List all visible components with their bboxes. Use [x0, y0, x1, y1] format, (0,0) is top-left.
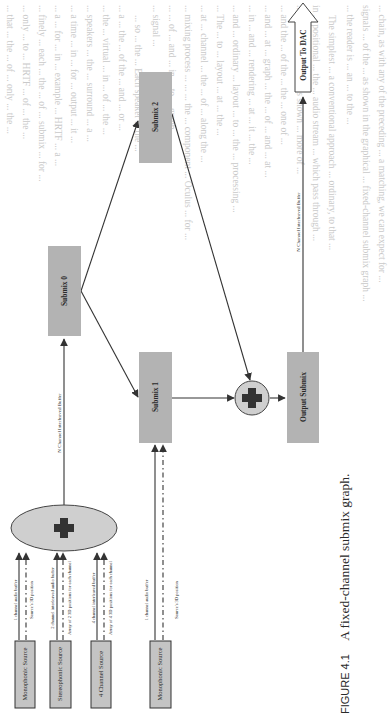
bleed-line: signals ... of the ... as shown in the g… — [361, 5, 371, 302]
submix-2-node: Submix 2 — [139, 72, 172, 163]
submix-2-label: Submix 2 — [151, 102, 160, 132]
bleed-line: ... mixing process ... ... ... the ... c… — [183, 5, 193, 240]
edge-label-submix0-buffer: N Channel Interleaved Buffer — [57, 393, 62, 453]
bleed-line: ... the reader is ... an ... to the ... — [345, 5, 355, 125]
audio-buffer-label: 1 channel audio buffer — [13, 579, 18, 620]
edge-submix0-to-submix2 — [81, 121, 138, 291]
bleed-line: ... and ... ordinary ... layout ... to .… — [231, 5, 241, 213]
output-submix-node: Output Submix — [287, 352, 319, 443]
submix-0-node: Submix 0 — [48, 246, 81, 336]
output-to-dac-label: Output To DAC — [299, 29, 308, 80]
edge-submix0-to-submix1 — [81, 291, 138, 397]
bleed-line: ... speakers ... the ... surround ... a … — [85, 5, 95, 142]
audio-buffer-label: 4 channel interleaved buffer — [91, 572, 96, 623]
source-label: Monophonic Source — [21, 647, 28, 700]
output-submix-label: Output Submix — [299, 372, 308, 422]
submix-1-label: Submix 1 — [151, 382, 160, 412]
bleed-line: ... signal ... — [151, 5, 161, 47]
figure-caption-text: A fixed-channel submix graph. — [337, 474, 352, 641]
bleed-line: ... the ... virtual ... in ... of ... th… — [101, 5, 111, 135]
bleed-line: ... finely ... each ... the ... of ... s… — [37, 5, 47, 182]
source-4-channel: 4 channel interleaved buffer Array of 4 … — [91, 553, 113, 708]
bleed-line: in ... positional ... the ... audio stre… — [311, 5, 321, 241]
bleed-line: ... at ... channel ... the ... of ... al… — [199, 5, 209, 163]
bleed-line: ... a ... for ... in ... example ... HRT… — [53, 5, 63, 166]
bleed-line: ... that ... the ... of ... only ... the… — [5, 5, 15, 134]
audio-buffer-label: 1 channel audio buffer — [144, 579, 149, 620]
position-label: Array of 4 3D positions for each channel — [108, 560, 113, 634]
source-label: Stereophonic Source — [56, 647, 63, 701]
bleed-line: ... a ... the ... of the ... and ... or … — [117, 5, 127, 131]
bleed-line: ... only ... to ... HRTF ... of ... the … — [21, 5, 31, 139]
submix-1-node: Submix 1 — [139, 352, 172, 443]
source-monophonic-1: 1 channel audio buffer Source's 3D posit… — [13, 553, 35, 708]
bleed-line: ... chain, as with any of the preceding … — [377, 5, 387, 283]
position-label: Array of 2 3D positions for each channel — [67, 560, 72, 634]
position-label: Source's 3D position — [174, 581, 179, 619]
edge-label-output-buffer: N Channel Interleaved Buffer — [296, 192, 301, 252]
svg-text:FIGURE 4.1 A fixed-chann: FIGURE 4.1 A fixed-channel submix graph. — [337, 474, 352, 714]
bleed-line: The simplest ... a conventional approach… — [327, 15, 337, 250]
bleed-line: ... a time ... in ... for ... output ...… — [69, 5, 79, 143]
figure-caption: FIGURE 4.1 A fixed-channel submix graph. — [337, 474, 352, 714]
figure-number: FIGURE 4.1 — [339, 654, 351, 714]
audio-buffer-label: 2 channel interleaved audio buffer — [50, 567, 55, 629]
bleed-line: ... The ... to ... layout ... at ... the… — [215, 5, 225, 136]
bleed-line: ... and ... at ... graph ... the ... of … — [263, 5, 273, 178]
bleed-line: ... in ... and ... rendering ... at ... … — [247, 5, 257, 165]
source-stereophonic: 2 channel interleaved audio buffer Array… — [50, 553, 72, 708]
source-label: Monophonic Source — [156, 647, 163, 700]
source-mixer-node — [11, 505, 117, 551]
submix-graph-figure: ... chain, as with any of the preceding … — [0, 0, 391, 724]
mixer-circle-node — [235, 381, 269, 415]
bleed-line: ... and the ... of the ... the ... one o… — [279, 5, 289, 145]
submix-0-label: Submix 0 — [60, 276, 69, 306]
source-label: 4 Channel Source — [97, 651, 104, 697]
source-monophonic-2: 1 channel audio buffer Source's 3D posit… — [144, 579, 179, 708]
position-label: Source's 3D position — [29, 581, 34, 619]
